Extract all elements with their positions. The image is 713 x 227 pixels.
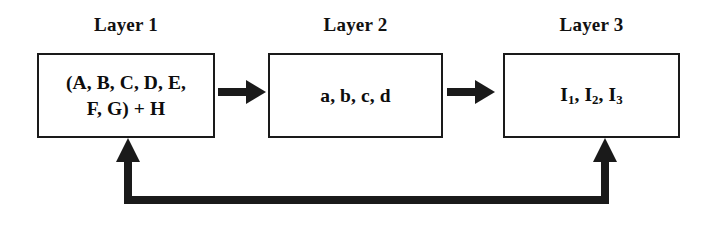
layer-3-item-3: I3	[609, 84, 623, 105]
forward-arrow-1-icon	[218, 80, 266, 104]
layer-2-box[interactable]: a, b, c, d	[268, 53, 443, 138]
diagram-canvas: Layer 1 Layer 2 Layer 3 (A, B, C, D, E, …	[0, 0, 713, 227]
layer-3-box[interactable]: I1, I2, I3	[503, 53, 680, 138]
layer-1-label: Layer 1	[37, 14, 215, 36]
layer-3-label: Layer 3	[503, 14, 680, 36]
layer-3-item-2: I2	[584, 84, 598, 105]
layer-3-box-content: I1, I2, I3	[560, 82, 623, 109]
layer-3-item-2-base: I	[584, 84, 592, 105]
layer-3-item-1-base: I	[560, 84, 568, 105]
layer-1-box-line-2: F, G) + H	[66, 96, 186, 122]
feedback-arrow-icon	[116, 138, 617, 204]
layer-2-label: Layer 2	[268, 14, 443, 36]
layer-3-separator-1: ,	[574, 84, 584, 105]
layer-3-item-3-sub: 3	[616, 93, 623, 107]
layer-3-separator-2: ,	[599, 84, 609, 105]
layer-1-box-line-1: (A, B, C, D, E,	[66, 70, 186, 96]
layer-1-box[interactable]: (A, B, C, D, E, F, G) + H	[37, 53, 215, 138]
layer-1-box-content: (A, B, C, D, E, F, G) + H	[66, 70, 186, 121]
forward-arrow-2-icon	[447, 80, 495, 104]
layer-2-box-content: a, b, c, d	[320, 83, 390, 109]
layer-3-item-1: I1	[560, 84, 574, 105]
